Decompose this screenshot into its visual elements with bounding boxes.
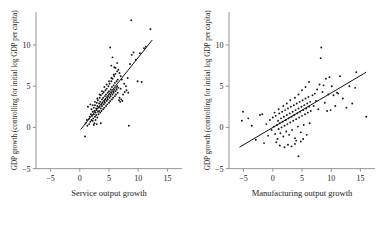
data-point [289,122,291,124]
data-point [331,85,333,87]
data-point [114,67,116,69]
data-point [116,62,118,64]
regression-line [240,72,367,147]
data-point [282,136,284,138]
data-point [115,87,117,89]
data-point [337,93,339,95]
data-point [271,129,273,131]
data-point [117,69,119,71]
data-point [300,140,302,142]
data-point [300,106,302,108]
data-point [108,90,110,92]
data-point [119,101,121,103]
data-point [109,83,111,85]
data-point [105,89,107,91]
data-point [110,95,112,97]
data-point [279,145,281,147]
data-point [272,117,274,119]
data-point [93,122,95,124]
data-point [313,105,315,107]
data-point [286,114,288,116]
data-point [99,101,101,103]
data-point [106,103,108,105]
data-point [295,118,297,120]
data-point [325,78,327,80]
data-point [106,88,108,90]
y-tick-label: 5 [220,82,224,91]
data-point [101,105,103,107]
data-point [120,98,122,100]
data-point [278,108,280,110]
data-point [307,96,309,98]
data-point [308,81,310,83]
data-point [92,120,94,122]
data-point [95,119,97,121]
data-point [323,84,325,86]
data-point [89,103,91,105]
data-point [110,80,112,82]
data-point [282,105,284,107]
data-point [127,92,129,94]
data-point [113,75,115,77]
scatter-points [241,47,367,158]
data-point [114,95,116,97]
data-point [263,142,265,144]
y-tick-label: 10 [23,41,31,50]
data-point [116,89,118,91]
data-point [130,19,132,21]
data-point [113,84,115,86]
data-point [92,111,94,113]
data-point [107,98,109,100]
data-point [284,125,286,127]
data-point [298,93,300,95]
data-point [106,100,108,102]
data-point [302,99,304,101]
data-point [112,93,114,95]
data-point [306,134,308,136]
data-point [108,102,110,104]
data-point [103,107,105,109]
data-point [103,103,105,105]
data-point [305,86,307,88]
x-tick-label: 5 [300,174,304,183]
data-point [278,128,280,130]
data-point [102,108,104,110]
data-point [261,113,263,115]
panel-right-manufacturing: −50510−5051015Manufacturing output growt… [190,0,380,237]
data-point [251,125,253,127]
data-point [96,105,98,107]
data-point [290,106,292,108]
data-point [113,74,115,76]
data-point [304,113,306,115]
plot-area-service: −50510−5051015Service output growthGDP g… [0,0,190,237]
data-point [88,123,90,125]
data-point [269,119,271,121]
data-point [121,100,123,102]
data-point [302,138,304,140]
data-point [242,111,244,113]
data-point [309,101,311,103]
data-point [104,102,106,104]
data-point [101,98,103,100]
y-axis-title: GDP growth (controlling for initial log … [204,10,212,171]
data-point [287,144,289,146]
data-point [298,117,300,119]
data-point [137,80,139,82]
data-point [255,139,257,141]
data-point [99,93,101,95]
data-point [94,116,96,118]
data-point [320,47,322,49]
data-point [334,105,336,107]
data-point [280,117,282,119]
data-point [103,86,105,88]
data-point [111,86,113,88]
data-point [87,106,89,108]
x-tick-label: 0 [78,174,82,183]
data-point [89,121,91,123]
data-point [96,123,98,125]
data-point [94,101,96,103]
data-point [291,129,293,131]
data-point [278,112,280,114]
data-point [108,80,110,82]
data-point [128,125,130,127]
